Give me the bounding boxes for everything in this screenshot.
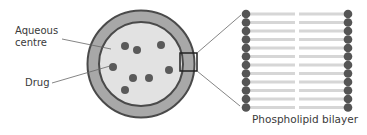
- liposome: [88, 11, 198, 118]
- drug-label: Drug: [25, 77, 50, 89]
- lipid-heads-right: [344, 10, 353, 112]
- lipid-tails: [250, 14, 344, 108]
- drug-molecule: [145, 74, 153, 82]
- drug-molecule: [121, 86, 129, 94]
- aqueous-label-line1: Aqueous: [15, 25, 58, 37]
- drug-molecule: [109, 63, 117, 71]
- zoom-line-bottom: [197, 71, 240, 106]
- lipid-heads-left: [242, 10, 251, 112]
- zoom-line-top: [197, 15, 241, 53]
- drug-molecule: [157, 41, 165, 49]
- drug-molecule: [165, 66, 173, 74]
- drug-molecule: [121, 42, 129, 50]
- drug-molecule: [129, 74, 137, 82]
- aqueous-label-line2: centre: [15, 37, 58, 49]
- aqueous-centre-label: Aqueous centre: [15, 25, 58, 49]
- drug-molecule: [133, 46, 141, 54]
- bilayer-caption: Phospholipid bilayer: [252, 113, 358, 125]
- phospholipid-bilayer: [242, 10, 353, 112]
